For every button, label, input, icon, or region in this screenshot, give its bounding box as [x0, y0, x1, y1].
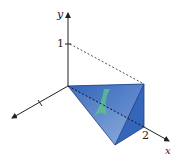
z-axis [12, 86, 68, 118]
y-axis-label: y [57, 9, 63, 20]
x-axis-label: x [165, 146, 171, 156]
diagram-canvas [0, 0, 180, 161]
x-tick-label: 2 [142, 130, 149, 141]
dashed-guide [70, 44, 144, 84]
y-tick-label: 1 [57, 38, 64, 49]
